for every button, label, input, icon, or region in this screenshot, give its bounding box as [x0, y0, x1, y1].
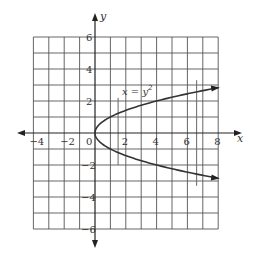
axes [22, 18, 236, 244]
y-tick-label: 6 [86, 32, 92, 43]
y-tick-label: −6 [81, 224, 96, 235]
y-axis-label: y [99, 10, 107, 23]
y-tick-label: −4 [81, 192, 96, 203]
y-tick-label: 2 [86, 96, 92, 107]
parabola-graph: −4−202468642−2−4−6 x y x = y2 [0, 0, 255, 258]
y-tick-label: −2 [81, 160, 96, 171]
x-tick-label: 2 [122, 136, 128, 147]
x-tick-label: 6 [183, 136, 189, 147]
x-tick-label: 0 [86, 136, 92, 147]
equation-label: x = y2 [122, 84, 153, 97]
y-axis-up-arrow-icon [92, 13, 98, 21]
y-tick-label: 4 [86, 64, 92, 75]
x-tick-label: 8 [214, 136, 220, 147]
x-axis-left-arrow-icon [17, 130, 25, 136]
x-tick-label: −4 [29, 136, 44, 147]
x-tick-label: −2 [60, 136, 75, 147]
x-tick-label: 4 [153, 136, 159, 147]
x-axis-label: x [237, 132, 244, 145]
y-axis-down-arrow-icon [92, 240, 98, 248]
